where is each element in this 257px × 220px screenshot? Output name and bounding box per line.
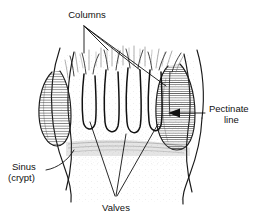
label-pectinate-line-1: Pectinate bbox=[209, 103, 249, 114]
label-columns: Columns bbox=[68, 9, 106, 20]
anatomy-diagram-figure: Columns Pectinate line Sinus (crypt) Val… bbox=[0, 0, 257, 220]
label-pectinate-line-2: line bbox=[224, 114, 239, 125]
label-sinus-line-1: Sinus bbox=[12, 161, 36, 172]
label-valves: Valves bbox=[102, 202, 130, 213]
diagram-canvas: Columns Pectinate line Sinus (crypt) Val… bbox=[0, 0, 257, 220]
label-sinus-line-2: (crypt) bbox=[8, 172, 35, 183]
